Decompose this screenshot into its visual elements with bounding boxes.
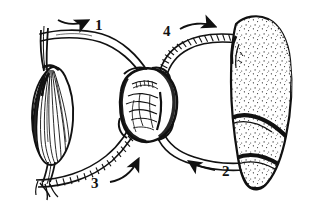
anatomical-diagram: 1 4 3 2 (0, 0, 315, 206)
figure-container: 1 4 3 2 (0, 0, 315, 206)
label-4: 4 (163, 23, 171, 39)
label-3: 3 (91, 175, 99, 191)
label-2: 2 (222, 163, 230, 179)
center-organ (119, 67, 177, 142)
label-1: 1 (95, 17, 103, 33)
